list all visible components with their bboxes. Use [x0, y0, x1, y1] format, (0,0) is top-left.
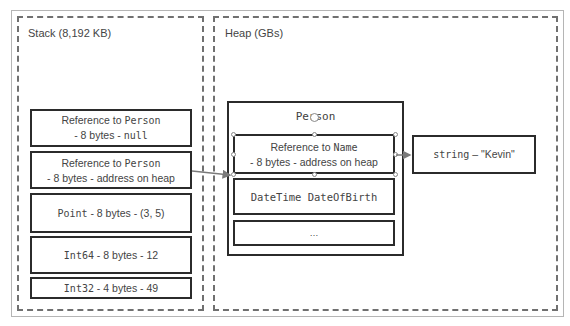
arrow-stack-to-person — [192, 171, 230, 175]
reference-arrows — [0, 0, 570, 326]
